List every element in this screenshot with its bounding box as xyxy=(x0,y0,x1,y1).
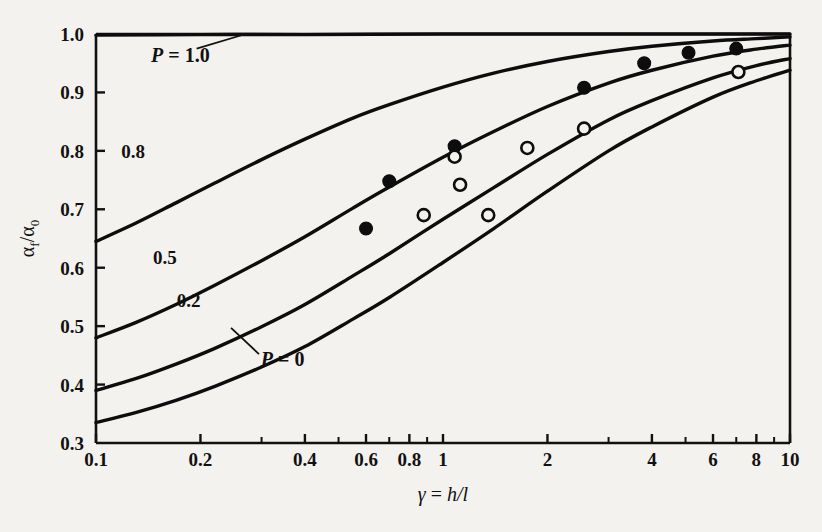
y-tick-label: 0.5 xyxy=(60,316,84,337)
curve-p-1-0 xyxy=(96,34,790,35)
data-point-filled xyxy=(383,175,396,188)
y-tick-label: 0.3 xyxy=(60,433,84,454)
y-tick-label: 1.0 xyxy=(60,24,84,45)
x-tick-label: 4 xyxy=(647,449,657,470)
y-tick-label: 0.7 xyxy=(60,199,84,220)
x-tick-label: 10 xyxy=(781,449,800,470)
y-tick-label: 0.9 xyxy=(60,82,84,103)
x-tick-label: 1 xyxy=(438,449,448,470)
data-point-open xyxy=(418,209,430,221)
curve-label-0-8: 0.8 xyxy=(121,141,145,162)
x-tick-label: 0.8 xyxy=(397,449,421,470)
data-point-open xyxy=(482,209,494,221)
data-point-filled xyxy=(638,57,651,70)
data-point-open xyxy=(449,151,461,163)
chart-canvas: 0.10.20.40.60.81246810 0.30.40.50.60.70.… xyxy=(0,0,822,532)
x-tick-label: 0.1 xyxy=(84,449,108,470)
x-tick-label: 8 xyxy=(752,449,762,470)
data-point-open xyxy=(732,66,744,78)
y-tick-label: 0.6 xyxy=(60,258,84,279)
curve-label-p-0: P = 0 xyxy=(260,348,305,370)
x-tick-label: 0.6 xyxy=(354,449,378,470)
curve-label-0-2: 0.2 xyxy=(177,290,201,311)
y-tick-label: 0.4 xyxy=(60,375,84,396)
chart-figure: 0.10.20.40.60.81246810 0.30.40.50.60.70.… xyxy=(0,0,822,532)
data-point-filled xyxy=(360,222,373,235)
x-tick-label: 2 xyxy=(543,449,553,470)
curve-label-p-1-0: P = 1.0 xyxy=(150,44,210,66)
data-point-filled xyxy=(730,42,743,55)
x-tick-label: 0.4 xyxy=(293,449,317,470)
curve-label-0-5: 0.5 xyxy=(153,247,177,268)
x-tick-label: 0.2 xyxy=(189,449,213,470)
data-point-filled xyxy=(682,46,695,59)
data-point-filled xyxy=(578,81,591,94)
y-tick-label: 0.8 xyxy=(60,141,84,162)
data-point-open xyxy=(578,123,590,135)
x-tick-label: 6 xyxy=(708,449,718,470)
data-point-open xyxy=(521,142,533,154)
data-point-open xyxy=(454,179,466,191)
x-axis-title: γ = h/l xyxy=(418,483,469,506)
